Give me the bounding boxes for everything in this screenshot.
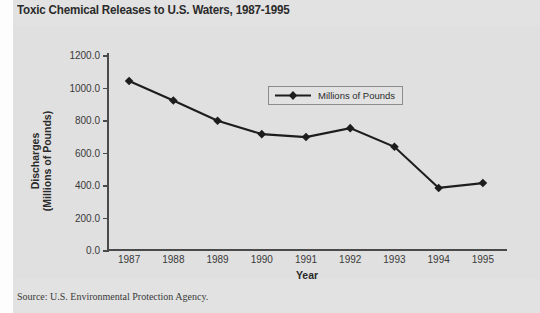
x-tick-label: 1988 [162, 254, 184, 265]
y-tick-label: 0.0 [86, 245, 100, 256]
y-tick-mark [103, 185, 109, 187]
chart-title: Toxic Chemical Releases to U.S. Waters, … [17, 3, 290, 17]
x-axis-line [107, 249, 507, 251]
x-tick-label: 1987 [118, 254, 140, 265]
legend: Millions of Pounds [268, 86, 403, 105]
y-tick-mark [103, 88, 109, 90]
legend-label: Millions of Pounds [318, 90, 395, 101]
x-tick-label: 1993 [383, 254, 405, 265]
x-tick-label: 1990 [251, 254, 273, 265]
y-tick-label: 1200.0 [69, 50, 100, 61]
x-tick-label: 1989 [206, 254, 228, 265]
y-tick-label: 600.0 [75, 147, 100, 158]
y-tick-mark [103, 55, 109, 57]
y-axis-title-line-1: Discharges [29, 110, 41, 210]
chart-figure: Toxic Chemical Releases to U.S. Waters, … [0, 0, 540, 313]
y-tick-label: 200.0 [75, 212, 100, 223]
y-tick-mark [103, 120, 109, 122]
y-tick-label: 800.0 [75, 115, 100, 126]
y-tick-label: 1000.0 [69, 82, 100, 93]
left-margin-strip [0, 0, 13, 313]
y-tick-mark [103, 218, 109, 220]
y-tick-label: 400.0 [75, 180, 100, 191]
x-tick-label: 1992 [339, 254, 361, 265]
x-axis-title: Year [107, 269, 507, 281]
source-note: Source: U.S. Environmental Protection Ag… [17, 291, 208, 302]
x-tick-label: 1991 [295, 254, 317, 265]
y-axis-title-line-2: (Millions of Pounds) [41, 110, 53, 210]
y-axis-title: Discharges (Millions of Pounds) [30, 88, 52, 233]
diamond-marker-icon [274, 90, 312, 101]
y-tick-mark [103, 153, 109, 155]
y-tick-mark [103, 250, 109, 252]
x-tick-label: 1994 [428, 254, 450, 265]
x-tick-label: 1995 [472, 254, 494, 265]
